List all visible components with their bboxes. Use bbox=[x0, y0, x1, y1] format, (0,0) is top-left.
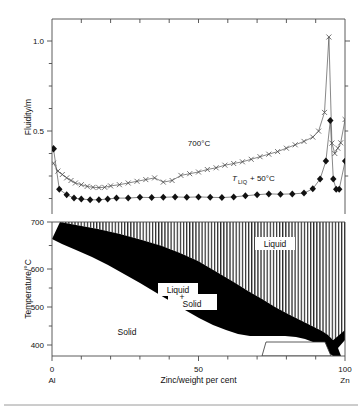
phase-diagram-xtick-100: 100 bbox=[338, 365, 352, 374]
region-label-mix-line2: Solid bbox=[183, 299, 202, 309]
top-plot-ytick-0.5: 0.5 bbox=[33, 127, 45, 136]
top-plot-ylabel: Fluidity/m bbox=[23, 99, 33, 135]
phase-diagram-xtick-0: 0 bbox=[50, 365, 55, 374]
region-label-mix-line1: Liquid bbox=[167, 285, 190, 295]
figure-container: 1.0 0.5 Fluidity/m bbox=[0, 0, 362, 415]
phase-diagram-ytick-700: 700 bbox=[31, 218, 45, 227]
phase-diagram-ylabel: Temperature/°C bbox=[23, 259, 33, 319]
series-700c-label: 700°C bbox=[188, 139, 211, 148]
phase-diagram-xlabel: Zinc/weight per cent bbox=[160, 375, 237, 385]
phase-diagram-ytick-400: 400 bbox=[31, 341, 45, 350]
eutectic-trough bbox=[262, 342, 331, 356]
phase-diagram-xtick-50: 50 bbox=[194, 365, 203, 374]
region-label-solid: Solid bbox=[118, 327, 137, 337]
figure-svg: 1.0 0.5 Fluidity/m bbox=[0, 0, 362, 415]
top-plot-ytick-1.0: 1.0 bbox=[33, 37, 45, 46]
region-label-liquid: Liquid bbox=[255, 237, 295, 250]
endpoint-label-al: Al bbox=[48, 376, 55, 385]
series-tliq-label-tail: + 50°C bbox=[250, 174, 275, 183]
region-label-liquid-text: Liquid bbox=[264, 239, 287, 249]
series-tliq-label-sub: LIQ bbox=[238, 179, 248, 185]
endpoint-label-zn: Zn bbox=[340, 376, 349, 385]
